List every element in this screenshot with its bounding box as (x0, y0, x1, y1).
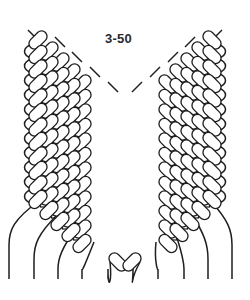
macrame-diagram (0, 0, 250, 300)
knot-grid (27, 29, 224, 274)
cord-end-right (150, 67, 160, 77)
cord-end-right (168, 52, 178, 62)
cord-end-left (108, 82, 118, 92)
cord-end-right (132, 82, 142, 92)
hanging-cord (9, 200, 40, 279)
hanging-cord (210, 200, 232, 279)
hanging-cord (108, 262, 111, 282)
hanging-cord (155, 242, 158, 279)
cord-end-left (72, 52, 82, 62)
cord-end-left (90, 67, 100, 77)
